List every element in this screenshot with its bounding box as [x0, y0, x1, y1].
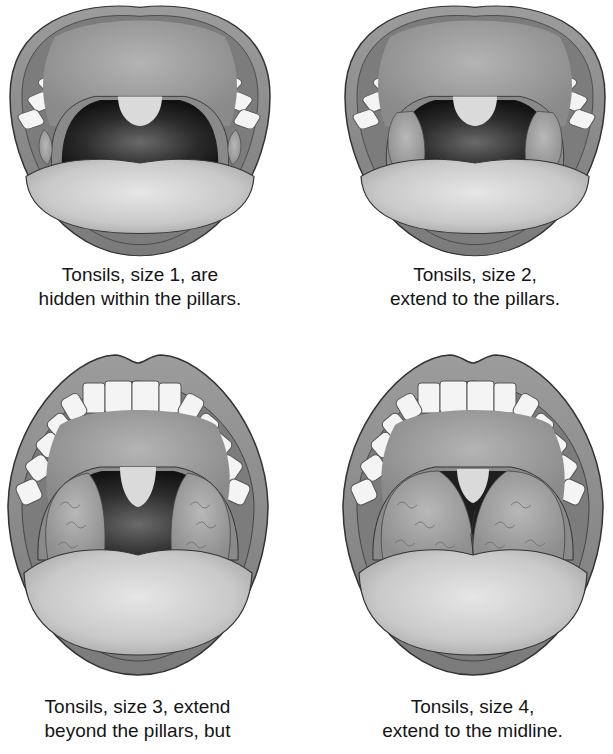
mouth-illustration-size-2	[335, 0, 613, 258]
panel-size-4: Tonsils, size 4, extend to the midline.	[306, 345, 613, 754]
caption-line-1: Tonsils, size 2,	[335, 263, 613, 287]
caption-line-2: extend to the pillars.	[335, 287, 613, 311]
mouth-illustration-size-1	[0, 0, 280, 258]
caption-line-2: extend to the midline.	[335, 719, 610, 743]
caption-line-1: Tonsils, size 4,	[335, 695, 610, 719]
mouth-illustration-size-4	[335, 345, 610, 680]
panel-size-2: Tonsils, size 2, extend to the pillars.	[306, 0, 613, 310]
caption-line-1: Tonsils, size 1, are	[0, 263, 280, 287]
caption-line-2: hidden within the pillars.	[0, 287, 280, 311]
caption-size-3: Tonsils, size 3, extend beyond the pilla…	[0, 695, 275, 743]
panel-size-1: Tonsils, size 1, are hidden within the p…	[0, 0, 306, 310]
upper-teeth-front	[83, 381, 181, 413]
caption-line-1: Tonsils, size 3, extend	[0, 695, 275, 719]
panel-size-3: Tonsils, size 3, extend beyond the pilla…	[0, 345, 306, 754]
upper-teeth-front	[418, 381, 516, 413]
caption-size-1: Tonsils, size 1, are hidden within the p…	[0, 263, 280, 311]
caption-size-4: Tonsils, size 4, extend to the midline.	[335, 695, 610, 743]
mouth-illustration-size-3	[0, 345, 275, 680]
caption-size-2: Tonsils, size 2, extend to the pillars.	[335, 263, 613, 311]
caption-line-2: beyond the pillars, but	[0, 719, 275, 743]
